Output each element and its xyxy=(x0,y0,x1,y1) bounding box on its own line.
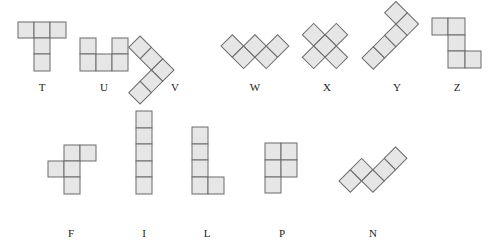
pentomino-t-shape xyxy=(18,22,66,71)
pentomino-x-shape xyxy=(291,12,359,80)
pentomino-diagram xyxy=(0,0,492,248)
pentomino-z-shape xyxy=(432,18,481,68)
label-w: W xyxy=(250,82,260,93)
label-p: P xyxy=(279,228,285,239)
label-y: Y xyxy=(393,82,401,93)
label-x: X xyxy=(323,82,331,93)
pentomino-u-shape xyxy=(80,38,128,71)
pentomino-i-shape xyxy=(136,111,152,194)
pentomino-l-shape xyxy=(192,127,224,194)
pentomino-n-shape xyxy=(339,136,407,204)
pentomino-y-shape xyxy=(351,1,419,69)
pentomino-p-shape xyxy=(265,143,297,193)
label-l: L xyxy=(204,228,211,239)
pentomino-w-shape xyxy=(221,12,289,80)
label-n: N xyxy=(369,228,377,239)
label-v: V xyxy=(171,82,179,93)
label-f: F xyxy=(68,228,74,239)
label-u: U xyxy=(100,82,108,93)
label-t: T xyxy=(39,82,46,93)
pentomino-f-shape xyxy=(48,145,96,194)
label-z: Z xyxy=(454,82,461,93)
label-i: I xyxy=(142,228,146,239)
